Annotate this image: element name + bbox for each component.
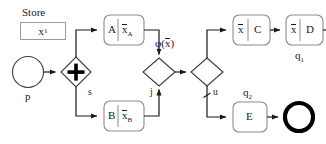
task-C-var: x: [238, 24, 244, 35]
end-event-q1-label: q1: [295, 50, 304, 64]
phi-condition-annotation: φ(x): [155, 38, 174, 49]
task-A-var-subscript: A: [128, 30, 133, 38]
flow-s-to-B: [76, 87, 97, 116]
end-event-q2-label: q2: [243, 87, 252, 101]
task-B-right-label: xB: [122, 110, 132, 124]
gateway-u-label: u: [213, 88, 218, 98]
diagram-canvas: Store x1 p s j u A xA B xB x C x D E φ(x…: [0, 0, 326, 144]
store-value-box: x1: [20, 22, 66, 40]
start-event-p: [13, 57, 44, 88]
gateway-s-label: s: [88, 88, 92, 98]
start-event-p-label: p: [25, 91, 31, 102]
task-A-left-label: A: [108, 24, 116, 35]
task-D-right-label: D: [306, 24, 314, 35]
store-label: Store: [22, 6, 45, 18]
task-D-var: x: [291, 24, 297, 35]
phi-suffix: ): [171, 37, 175, 49]
task-B-var-subscript: B: [128, 116, 133, 124]
gateway-s: [61, 57, 91, 87]
store-value-subscript: 1: [44, 27, 48, 35]
task-B-left-label: B: [108, 110, 115, 121]
task-A-right-label: xA: [122, 24, 133, 38]
gateway-u: [191, 58, 223, 86]
phi-var: x: [165, 38, 171, 49]
gateway-j: [143, 58, 175, 86]
phi-prefix: φ(: [155, 37, 165, 49]
gateway-j-label: j: [150, 88, 153, 98]
task-A-var: x: [122, 24, 128, 35]
task-C-left-label: x: [238, 24, 244, 35]
task-B-var: x: [122, 110, 128, 121]
task-D-left-label: x: [291, 24, 297, 35]
flow-s-to-A: [76, 30, 97, 57]
task-E-label: E: [246, 111, 253, 122]
end-event-q2: [285, 103, 313, 131]
flow-u-to-C: [207, 30, 226, 58]
task-C-right-label: C: [254, 24, 261, 35]
end-event-q1-subscript: 1: [301, 56, 305, 64]
end-event-q2-subscript: 2: [249, 93, 253, 101]
